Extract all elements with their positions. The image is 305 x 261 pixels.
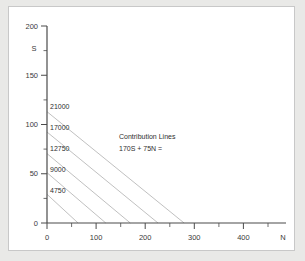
contribution-line-9000	[47, 173, 106, 223]
line-label-4750: 4750	[50, 187, 66, 194]
y-axis-ticks	[41, 26, 47, 223]
x-tick-label-0: 0	[45, 233, 49, 242]
line-label-9000: 9000	[50, 166, 66, 173]
y-axis-label: S	[31, 44, 36, 53]
x-axis-label: N	[280, 233, 285, 242]
x-tick-label-200: 200	[139, 233, 152, 242]
line-label-12750: 12750	[50, 145, 70, 152]
x-tick-label-400: 400	[237, 233, 250, 242]
line-label-21000: 21000	[50, 103, 70, 110]
chart-figure-frame: 200 150 100 50 0 S 0 100 200 300 400 N 2…	[8, 6, 295, 251]
y-tick-label-200: 200	[25, 22, 38, 31]
x-axis-ticks	[47, 223, 243, 229]
y-tick-label-100: 100	[25, 120, 38, 129]
y-tick-label-0: 0	[34, 219, 38, 228]
annotation-title: Contribution Lines	[119, 133, 176, 140]
contribution-lines-chart: 200 150 100 50 0 S 0 100 200 300 400 N 2…	[9, 7, 296, 252]
y-tick-label-50: 50	[30, 169, 38, 178]
contribution-line-4750	[47, 194, 78, 223]
line-label-17000: 17000	[50, 124, 70, 131]
x-axis-minor-ticks	[72, 223, 268, 227]
x-tick-label-300: 300	[188, 233, 201, 242]
y-tick-label-150: 150	[25, 71, 38, 80]
annotation-formula: 170S + 75N =	[119, 145, 162, 152]
x-tick-label-100: 100	[90, 233, 103, 242]
chart-svg: 200 150 100 50 0 S 0 100 200 300 400 N 2…	[9, 7, 296, 252]
